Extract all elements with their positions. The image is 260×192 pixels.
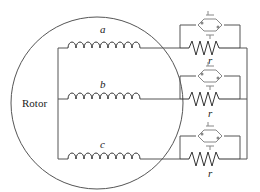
- resistor-c-icon: [180, 152, 240, 166]
- resistor-label-b: r: [208, 107, 213, 119]
- resistor-b-icon: [180, 92, 240, 106]
- winding-label-c: c: [100, 138, 105, 150]
- rotor-circuit-diagram: a b c Rotor r: [0, 0, 260, 192]
- resistor-label-a: r: [208, 54, 213, 66]
- rotor-label: Rotor: [22, 97, 47, 109]
- switch-a-icon: [198, 11, 222, 39]
- winding-b: [58, 93, 180, 99]
- winding-label-a: a: [100, 23, 106, 35]
- resistor-label-c: r: [208, 167, 213, 179]
- resistor-a-icon: [180, 41, 240, 55]
- switch-c-icon: [198, 122, 222, 150]
- phase-a-network: [180, 11, 247, 55]
- phase-c-network: [180, 122, 247, 166]
- winding-label-b: b: [100, 78, 106, 90]
- winding-c: [58, 153, 180, 159]
- switch-b-icon: [198, 62, 222, 90]
- phase-b-network: [180, 62, 247, 106]
